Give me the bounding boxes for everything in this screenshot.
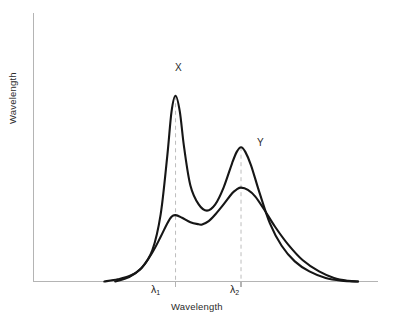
x-tick-label-lambda-2: λ2	[230, 284, 239, 295]
x-tick-label-lambda-1: λ1	[151, 284, 160, 295]
lambda-subscript-2: 2	[235, 289, 239, 296]
spectral-plot	[0, 0, 406, 325]
x-axis-title: Wavelength	[171, 302, 223, 312]
lambda-subscript-1: 1	[156, 289, 160, 296]
curve-label-y: Y	[257, 138, 264, 148]
chart-figure: Wavelength Wavelength λ1 λ2 X Y	[0, 0, 406, 325]
curve-label-x: X	[175, 63, 182, 73]
curve-series-y	[115, 188, 358, 282]
curve-series-x	[104, 96, 358, 282]
y-axis-title: Wavelength	[8, 72, 18, 124]
